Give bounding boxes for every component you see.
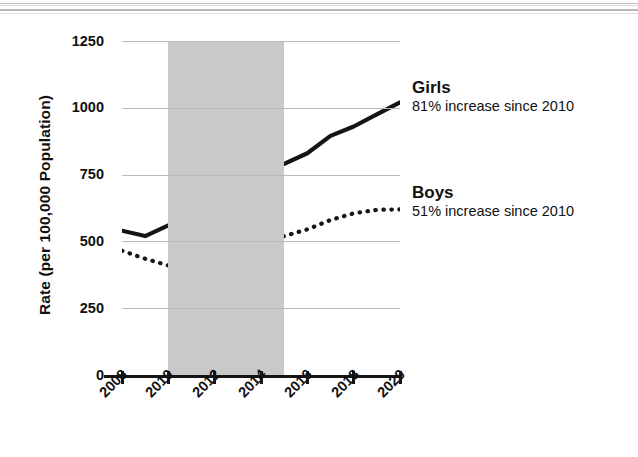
x-tick-label-2016: 2016 xyxy=(281,366,315,400)
x-tick-label-2014: 2014 xyxy=(235,366,269,400)
x-tick-label-2020: 2020 xyxy=(374,366,408,400)
x-tick-label-2018: 2018 xyxy=(328,366,362,400)
girls-series-label: Girls xyxy=(412,78,574,98)
girls-annotation: Girls 81% increase since 2010 xyxy=(412,78,574,115)
x-tick-label-2010: 2010 xyxy=(142,366,176,400)
x-axis-tick-labels: 2008201020122014201620182020 xyxy=(0,0,638,457)
boys-annotation: Boys 51% increase since 2010 xyxy=(412,183,574,220)
line-chart-figure: Rate (per 100,000 Population) 1250 1000 … xyxy=(0,0,638,457)
x-tick-label-2012: 2012 xyxy=(189,366,223,400)
girls-series-detail: 81% increase since 2010 xyxy=(412,98,574,115)
boys-series-label: Boys xyxy=(412,183,574,203)
boys-series-detail: 51% increase since 2010 xyxy=(412,203,574,220)
x-tick-label-2008: 2008 xyxy=(96,366,130,400)
